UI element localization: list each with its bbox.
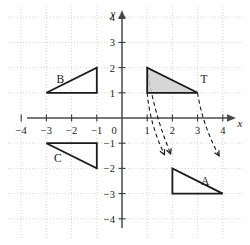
y-axis-tick-label: −1 bbox=[104, 138, 115, 149]
y-axis-tick-label: 2 bbox=[110, 63, 115, 74]
x-axis-tick-label: −2 bbox=[66, 125, 77, 136]
y-axis-tick-label: −4 bbox=[104, 214, 116, 225]
x-axis-tick-label: 2 bbox=[170, 125, 175, 136]
y-axis-tick-label: −2 bbox=[104, 163, 115, 174]
y-axis-tick-label: −3 bbox=[104, 189, 115, 200]
x-axis-name: x bbox=[237, 117, 243, 129]
triangle-b bbox=[46, 68, 96, 93]
x-axis-tick-label: 3 bbox=[195, 125, 200, 136]
plot-svg: −4−3−2−112344321−1−2−3−40xyTBCA bbox=[0, 0, 250, 245]
x-axis-tick-label: −4 bbox=[16, 125, 28, 136]
y-axis-tick-label: 3 bbox=[110, 37, 115, 48]
mapping-arrow bbox=[147, 93, 164, 155]
shape-label-b: B bbox=[56, 73, 64, 85]
x-axis-arrowhead bbox=[227, 114, 236, 121]
shape-label-a: A bbox=[201, 175, 210, 187]
y-axis-name: y bbox=[110, 7, 116, 19]
x-axis-tick-label: 1 bbox=[145, 125, 150, 136]
y-axis-tick-label: 1 bbox=[110, 88, 115, 99]
x-axis-tick-label: 4 bbox=[220, 125, 226, 136]
triangle-t bbox=[147, 68, 197, 93]
grid-layer bbox=[8, 6, 244, 238]
text-labels-layer: −4−3−2−112344321−1−2−3−40xyTBCA bbox=[16, 7, 243, 225]
mapping-arrow bbox=[198, 93, 219, 156]
mapping-arrowhead bbox=[214, 150, 219, 155]
x-axis-tick-label: −1 bbox=[91, 125, 102, 136]
shape-label-c: C bbox=[54, 152, 62, 164]
origin-label: 0 bbox=[111, 125, 116, 136]
shape-label-t: T bbox=[200, 73, 207, 85]
x-axis-tick-label: −3 bbox=[41, 125, 52, 136]
coordinate-plane-figure: −4−3−2−112344321−1−2−3−40xyTBCA bbox=[0, 0, 250, 245]
